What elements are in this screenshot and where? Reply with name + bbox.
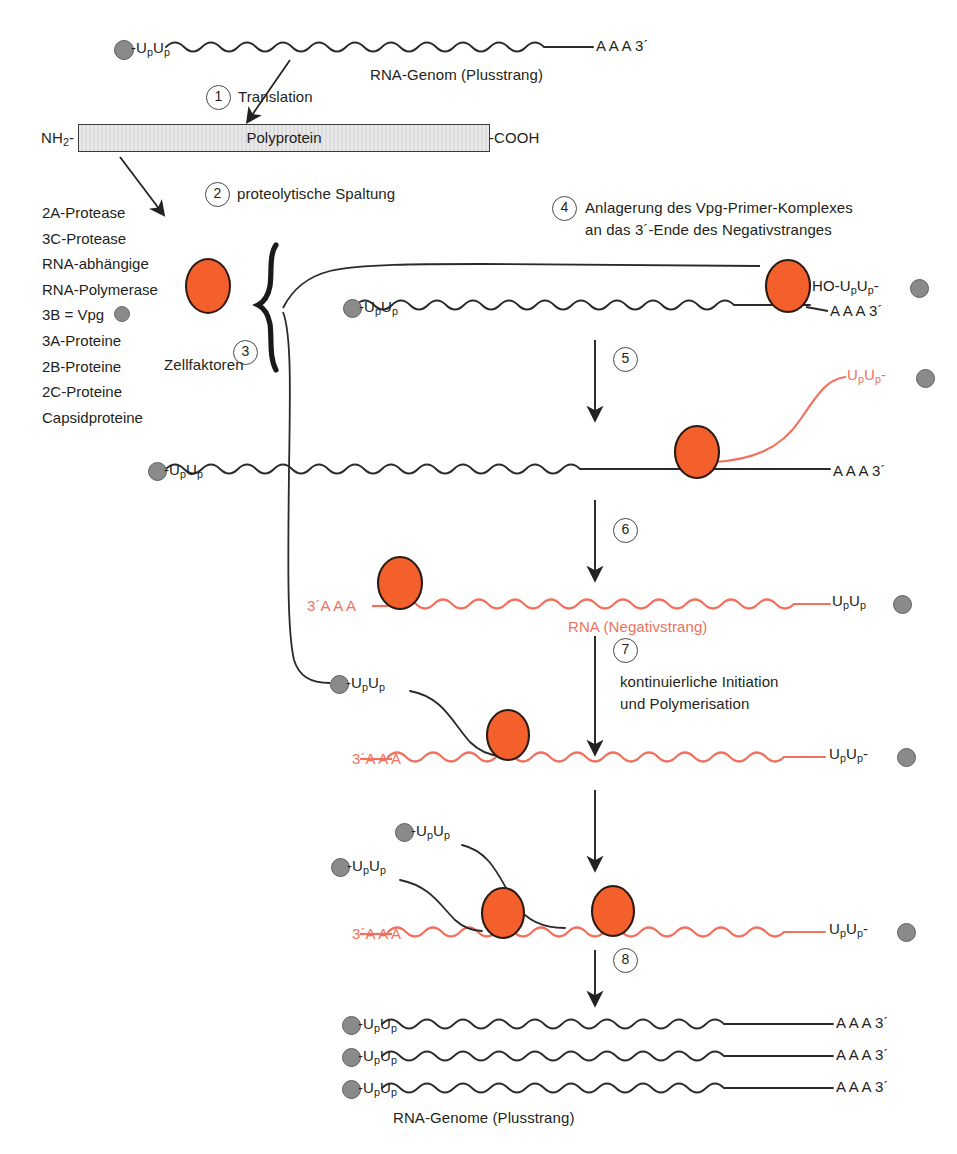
vpg-dot-panel4-primer bbox=[910, 279, 929, 298]
step-6-marker: 6 bbox=[613, 518, 638, 543]
step-1-label: Translation bbox=[238, 88, 313, 107]
diagram-canvas: -UpUp A A A 3´ RNA-Genom (Plusstrang) 1 … bbox=[0, 0, 957, 1154]
polyprotein-bar: Polyprotein bbox=[78, 124, 490, 152]
panel5-template-strand bbox=[166, 465, 830, 474]
panel6-right-label: UpUp bbox=[832, 592, 866, 613]
step-2-marker: 2 bbox=[205, 182, 230, 207]
panel4-template-strand bbox=[356, 301, 828, 312]
vpg-dot-icon bbox=[114, 306, 130, 322]
panel8-negative-strand bbox=[360, 928, 825, 937]
panel6-caption: RNA (Negativstrang) bbox=[568, 618, 707, 637]
protein-item-2: RNA-abhängige bbox=[42, 251, 158, 277]
panel4-3prime-label: A A A 3´ bbox=[830, 302, 883, 321]
protein-item-4-text: 3B = Vpg bbox=[42, 306, 104, 323]
panel8-polymerase-ellipse-left bbox=[482, 888, 524, 938]
panel4-polymerase-ellipse bbox=[766, 260, 810, 312]
cleavage-product-list: 2A-Protease 3C-Protease RNA-abhängige RN… bbox=[42, 200, 158, 430]
panel5-nascent-label: UpUp- bbox=[847, 366, 886, 387]
vpg-dot-panel5-nascent bbox=[916, 369, 935, 388]
step-4-label-line1: Anlagerung des Vpg-Primer-Komplexes bbox=[585, 199, 853, 218]
step-1-marker: 1 bbox=[206, 85, 231, 110]
protein-item-8: Capsidproteine bbox=[42, 405, 158, 431]
step-7-label-line2: und Polymerisation bbox=[620, 695, 749, 714]
panel5-polymerase-ellipse bbox=[675, 426, 719, 478]
step-3-label: Zellfaktoren bbox=[164, 356, 244, 375]
output-genome-strand-1 bbox=[382, 1020, 833, 1029]
diagram-vector-layer bbox=[0, 0, 957, 1154]
panel6-3prime-left-label: 3´A A A bbox=[307, 597, 356, 616]
protein-item-6: 2B-Proteine bbox=[42, 354, 158, 380]
protein-item-7: 2C-Proteine bbox=[42, 379, 158, 405]
panel7-polymerase-ellipse bbox=[487, 710, 529, 760]
panel5-nascent-strand bbox=[714, 377, 845, 462]
cell-factors-brace bbox=[258, 245, 276, 370]
panel8-right-label: UpUp- bbox=[829, 920, 868, 941]
protein-item-0: 2A-Protease bbox=[42, 200, 158, 226]
output-genome-1-3prime: A A A 3´ bbox=[836, 1014, 889, 1033]
panel8-primer-label-upper: -UpUp bbox=[411, 822, 450, 843]
step-4-label-line2: an das 3´-Ende des Negativstranges bbox=[585, 221, 832, 240]
top-genome-caption: RNA-Genom (Plusstrang) bbox=[370, 66, 543, 85]
protein-item-3: RNA-Polymerase bbox=[42, 277, 158, 303]
step-7-label-line1: kontinuierliche Initiation bbox=[620, 673, 779, 692]
top-genome-strand bbox=[166, 43, 593, 52]
output-genome-2-5prime: -UpUp bbox=[358, 1047, 397, 1068]
panel6-negative-strand bbox=[372, 600, 830, 609]
polyprotein-c-terminus: -COOH bbox=[489, 129, 540, 148]
top-genome-3prime-label: A A A 3´ bbox=[596, 37, 649, 56]
panel8-3prime-left-label: 3´A A A bbox=[352, 925, 401, 944]
panel5-3prime-label: A A A 3´ bbox=[833, 462, 886, 481]
step-2-label: proteolytische Spaltung bbox=[237, 185, 395, 204]
output-genome-3-5prime: -UpUp bbox=[358, 1079, 397, 1100]
panel7-primer-label: -UpUp bbox=[346, 674, 385, 695]
step-5-marker: 5 bbox=[613, 347, 638, 372]
vpg-dot-panel8-right bbox=[897, 923, 916, 942]
panel5-5prime-label: -UpUp bbox=[164, 461, 203, 482]
top-genome-5prime-label: -UpUp bbox=[131, 39, 170, 60]
polyprotein-n-terminus: NH2- bbox=[41, 129, 74, 150]
step-4-marker: 4 bbox=[552, 196, 577, 221]
panel8-polymerase-ellipse-right bbox=[592, 886, 634, 936]
panel7-negative-strand bbox=[360, 753, 825, 762]
output-genome-2-3prime: A A A 3´ bbox=[836, 1046, 889, 1065]
panel7-nascent-plus-strand bbox=[410, 691, 500, 756]
output-genome-1-5prime: -UpUp bbox=[358, 1015, 397, 1036]
polyprotein-label: Polyprotein bbox=[79, 125, 489, 150]
polymerase-ellipse-legend bbox=[185, 258, 231, 314]
panel8-nascent-strand-lower bbox=[400, 880, 482, 931]
vpg-dot-panel7-right bbox=[897, 748, 916, 767]
output-genome-strand-2 bbox=[382, 1052, 833, 1061]
panel4-primer-label: HO-UpUp- bbox=[812, 277, 879, 298]
panel7-right-label: UpUp- bbox=[829, 745, 868, 766]
panel8-primer-label-lower: -UpUp bbox=[347, 857, 386, 878]
step-7-marker: 7 bbox=[613, 638, 638, 663]
protein-item-4: 3B = Vpg bbox=[42, 302, 158, 328]
protein-item-1: 3C-Protease bbox=[42, 226, 158, 252]
panel4-5prime-label: -UpUp bbox=[359, 298, 398, 319]
panel6-polymerase-ellipse bbox=[378, 557, 422, 609]
brace-to-panel7-connector bbox=[283, 312, 330, 683]
vpg-dot-panel6-right bbox=[893, 595, 912, 614]
panel7-3prime-left-label: 3´A A A bbox=[352, 750, 401, 769]
protein-item-5: 3A-Proteine bbox=[42, 328, 158, 354]
output-genomes-caption: RNA-Genome (Plusstrang) bbox=[393, 1109, 575, 1128]
output-genome-strand-3 bbox=[382, 1084, 833, 1093]
output-genome-3-3prime: A A A 3´ bbox=[836, 1078, 889, 1097]
step-8-marker: 8 bbox=[613, 948, 638, 973]
